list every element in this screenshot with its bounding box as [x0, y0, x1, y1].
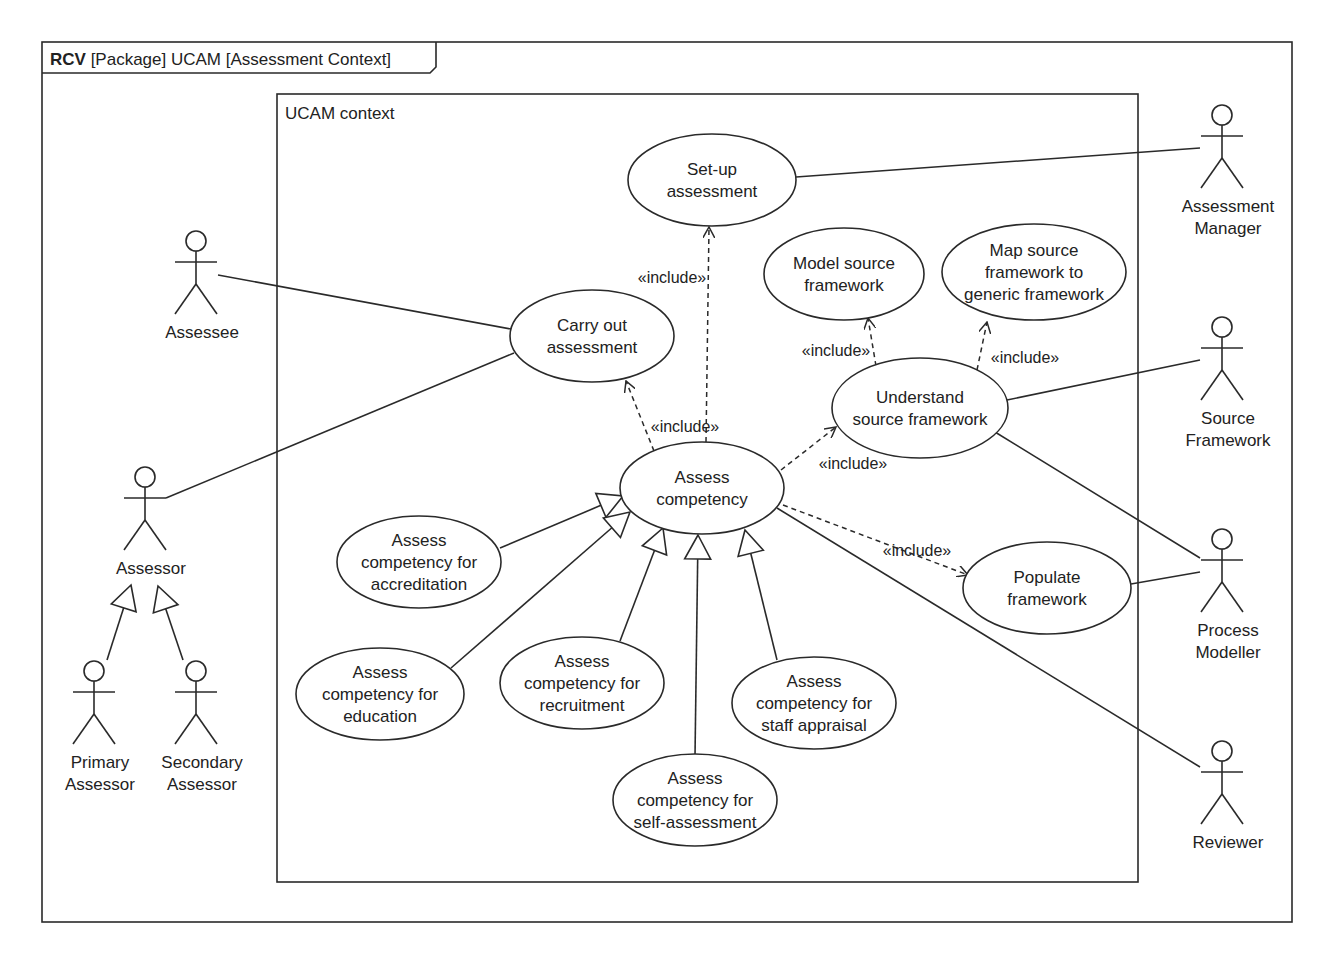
stick-figure-icon — [175, 661, 217, 744]
actor-label: Primary — [71, 753, 130, 772]
include-assess-populate: «include» — [783, 505, 968, 575]
include-stereotype-label: «include» — [819, 455, 888, 472]
use-case-label: Assess — [787, 672, 842, 691]
association-modeller-understand — [995, 432, 1200, 558]
use-case-accred[interactable]: Assesscompetency foraccreditation — [337, 516, 501, 608]
stick-figure-icon — [73, 661, 115, 744]
frame-title: RCV [Package] UCAM [Assessment Context] — [50, 50, 391, 69]
actor-label: Assessor — [116, 559, 186, 578]
stick-figure-icon — [1201, 317, 1243, 400]
use-case-label: assessment — [667, 182, 758, 201]
use-case-label: Populate — [1013, 568, 1080, 587]
actor-assessee[interactable]: Assessee — [165, 231, 239, 342]
use-case-ellipse[interactable] — [510, 290, 674, 382]
include-arrow — [706, 227, 709, 442]
use-case-populate[interactable]: Populateframework — [963, 542, 1131, 634]
use-case-label: framework to — [985, 263, 1083, 282]
generalization-accred-assess — [500, 493, 623, 548]
use-case-label: source framework — [852, 410, 988, 429]
stick-figure-icon — [124, 467, 166, 550]
include-stereotype-label: «include» — [883, 542, 952, 559]
actor-label: Source — [1201, 409, 1255, 428]
actor-label: Secondary — [161, 753, 243, 772]
include-understand-map: «include» — [977, 322, 1059, 370]
use-case-label: Map source — [990, 241, 1079, 260]
use-case-label: competency for — [361, 553, 478, 572]
use-case-label: competency for — [756, 694, 873, 713]
use-case-map[interactable]: Map sourceframework togeneric framework — [942, 224, 1126, 320]
use-case-label: staff appraisal — [761, 716, 867, 735]
use-case-ellipse[interactable] — [764, 228, 924, 320]
association-source-understand — [1007, 360, 1200, 400]
use-case-label: framework — [804, 276, 884, 295]
use-case-ellipse[interactable] — [963, 542, 1131, 634]
association-manager-setup — [796, 148, 1200, 177]
use-case-label: framework — [1007, 590, 1087, 609]
use-case-label: Understand — [876, 388, 964, 407]
actor-source[interactable]: SourceFramework — [1185, 317, 1271, 450]
actor-manager[interactable]: AssessmentManager — [1182, 105, 1275, 238]
use-case-label: accreditation — [371, 575, 467, 594]
include-stereotype-label: «include» — [651, 418, 720, 435]
actor-label: Manager — [1194, 219, 1261, 238]
actor-label: Assessor — [167, 775, 237, 794]
include-arrow — [783, 505, 968, 575]
use-case-label: generic framework — [964, 285, 1104, 304]
use-case-self[interactable]: Assesscompetency forself-assessment — [613, 754, 777, 846]
actor-primary[interactable]: PrimaryAssessor — [65, 661, 135, 794]
stick-figure-icon — [1201, 741, 1243, 824]
actor-secondary[interactable]: SecondaryAssessor — [161, 661, 243, 794]
use-case-label: competency for — [322, 685, 439, 704]
use-case-label: Assess — [668, 769, 723, 788]
use-case-ellipse[interactable] — [628, 134, 796, 226]
use-case-label: Set-up — [687, 160, 737, 179]
use-cases: Set-upassessmentCarry outassessmentModel… — [296, 134, 1131, 846]
actor-label: Assessor — [65, 775, 135, 794]
use-case-label: Assess — [555, 652, 610, 671]
include-stereotype-label: «include» — [638, 269, 707, 286]
use-case-label: competency — [656, 490, 748, 509]
include-understand-model: «include» — [802, 318, 876, 366]
stick-figure-icon — [175, 231, 217, 314]
use-case-label: Model source — [793, 254, 895, 273]
stick-figure-icon — [1201, 105, 1243, 188]
include-stereotype-label: «include» — [802, 342, 871, 359]
use-case-ellipse[interactable] — [620, 442, 784, 534]
actor-label: Modeller — [1195, 643, 1261, 662]
actor-label: Framework — [1185, 431, 1271, 450]
use-case-label: competency for — [524, 674, 641, 693]
generalization-recruit-assess — [620, 528, 667, 641]
frame-title-bold: RCV — [50, 50, 87, 69]
use-case-label: Assess — [392, 531, 447, 550]
use-case-recruit[interactable]: Assesscompetency forrecruitment — [500, 637, 664, 729]
actor-label: Assessment — [1182, 197, 1275, 216]
actor-label: Process — [1197, 621, 1258, 640]
generalization-self-assess — [685, 535, 711, 757]
use-case-label: competency for — [637, 791, 754, 810]
use-case-edu[interactable]: Assesscompetency foreducation — [296, 648, 464, 740]
use-case-understand[interactable]: Understandsource framework — [832, 358, 1008, 458]
generalization-arrowhead-icon — [685, 535, 711, 559]
include-arrow — [977, 322, 987, 370]
system-boundary-label: UCAM context — [285, 104, 395, 123]
use-case-ellipse[interactable] — [832, 358, 1008, 458]
use-case-staff[interactable]: Assesscompetency forstaff appraisal — [732, 657, 896, 749]
use-case-setup[interactable]: Set-upassessment — [628, 134, 796, 226]
generalization-primary-assessor — [107, 585, 136, 660]
actor-assessor[interactable]: Assessor — [116, 467, 186, 578]
use-case-label: self-assessment — [634, 813, 757, 832]
actor-reviewer[interactable]: Reviewer — [1193, 741, 1264, 852]
use-case-label: education — [343, 707, 417, 726]
actor-label: Assessee — [165, 323, 239, 342]
use-case-label: Carry out — [557, 316, 627, 335]
frame-title-rest: [Package] UCAM [Assessment Context] — [86, 50, 391, 69]
use-case-model[interactable]: Model sourceframework — [764, 228, 924, 320]
generalization-arrowhead-icon — [153, 586, 178, 613]
use-case-label: Assess — [675, 468, 730, 487]
use-case-assess[interactable]: Assesscompetency — [620, 442, 784, 534]
use-case-carryout[interactable]: Carry outassessment — [510, 290, 674, 382]
use-case-label: recruitment — [539, 696, 624, 715]
actor-modeller[interactable]: ProcessModeller — [1195, 529, 1261, 662]
generalization-arrowhead-icon — [738, 530, 763, 556]
actor-label: Reviewer — [1193, 833, 1264, 852]
